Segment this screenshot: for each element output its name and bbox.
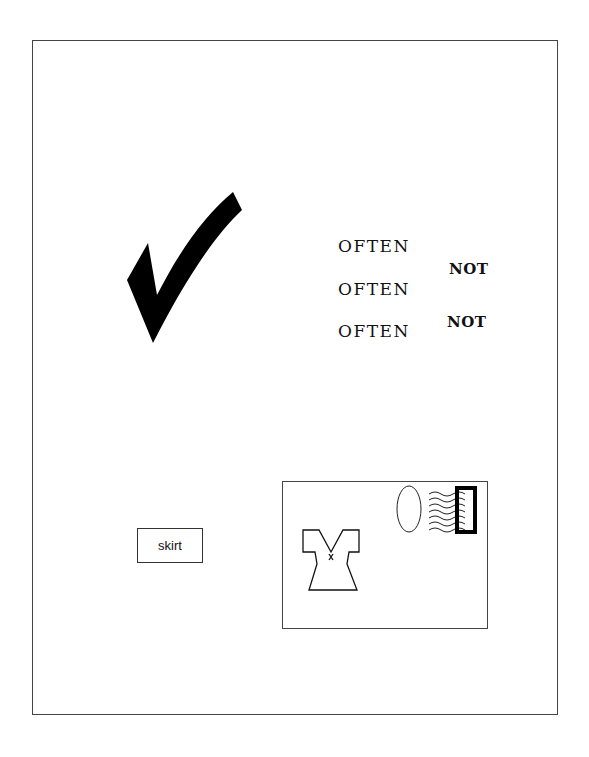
postcard (282, 481, 488, 629)
skirt-label-box: skirt (137, 528, 203, 563)
checkmark-icon (120, 185, 250, 350)
dress-icon (303, 530, 359, 590)
often-word-3: OFTEN (338, 321, 410, 341)
often-word-1: OFTEN (338, 236, 410, 256)
not-word-1: NOT (449, 260, 488, 278)
oval-postmark-icon (397, 486, 421, 532)
not-word-2: NOT (447, 313, 486, 331)
often-word-2: OFTEN (338, 279, 410, 299)
skirt-label: skirt (158, 538, 182, 553)
wavy-cancel-lines-icon (429, 492, 465, 532)
